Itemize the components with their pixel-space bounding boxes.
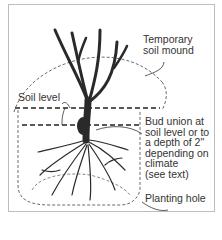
mound-label-line: Temporary [143, 34, 194, 45]
roots [38, 140, 128, 200]
bud-union-label-line: a depth of 2" [145, 137, 209, 148]
mound-label-line: soil mound [143, 45, 194, 56]
soil-level-arrow [62, 108, 65, 125]
mound-leader [145, 62, 164, 76]
soil-level-leader [62, 102, 70, 108]
soil-level-label: Soil level [18, 92, 60, 103]
planting-hole-label: Planting hole [145, 193, 206, 204]
bud-union-label-line: Bud union at [145, 116, 209, 127]
inner-hole-outline [32, 174, 130, 195]
bud-union-label-line: climate [145, 158, 209, 169]
bud-union-label-line: (see text) [145, 169, 209, 180]
soil-mound-right [162, 82, 166, 110]
bud-union [77, 117, 89, 135]
bud-union-label: Bud union at soil level or to a depth of… [145, 116, 209, 179]
rose-canes [55, 30, 127, 140]
mound-label: Temporary soil mound [143, 34, 194, 55]
bud-union-leader [96, 127, 142, 134]
